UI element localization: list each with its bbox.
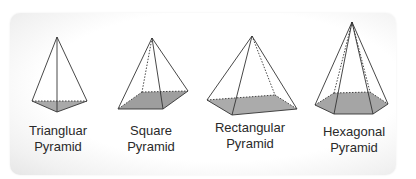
label-hexagonal-pyramid: Hexagonal Pyramid — [304, 124, 404, 156]
rectangular-pyramid-shape — [207, 36, 297, 115]
label-line2: Pyramid — [200, 136, 300, 152]
label-line1: Square — [101, 123, 201, 139]
label-line1: Rectangular — [200, 120, 300, 136]
label-line1: Triangluar — [8, 123, 108, 139]
label-triangular-pyramid: Triangluar Pyramid — [8, 123, 108, 155]
hexagonal-pyramid-shape — [315, 22, 388, 114]
label-rectangular-pyramid: Rectangular Pyramid — [200, 120, 300, 152]
label-line2: Pyramid — [8, 139, 108, 155]
label-line2: Pyramid — [101, 139, 201, 155]
label-line1: Hexagonal — [304, 124, 404, 140]
label-square-pyramid: Square Pyramid — [101, 123, 201, 155]
square-pyramid-shape — [118, 38, 188, 109]
label-line2: Pyramid — [304, 140, 404, 156]
triangular-pyramid-shape — [32, 37, 87, 112]
